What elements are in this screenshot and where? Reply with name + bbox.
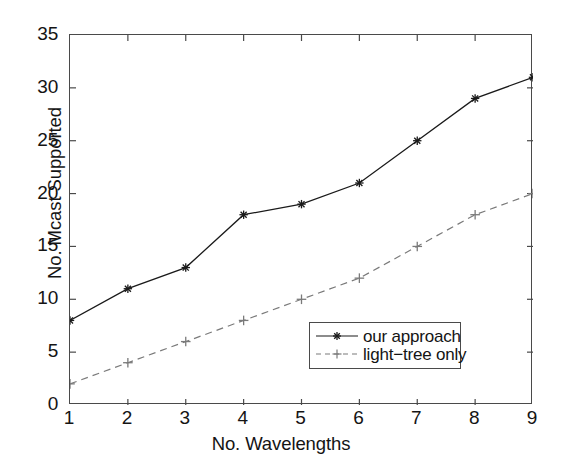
y-tick-label-1: 5 [0,341,58,360]
legend-item-series-1: our approach [315,327,455,345]
x-tick-label-6: 7 [396,408,436,427]
data-point-marker [239,316,249,326]
series-line-1 [70,77,533,320]
x-tick-label-7: 8 [454,408,494,427]
x-tick-label-1: 2 [107,408,147,427]
data-point-marker [471,94,479,102]
data-point-marker [413,137,421,145]
data-point-marker [297,200,305,208]
data-point-marker [355,179,363,187]
legend-item-series-2: light−tree only [315,345,455,363]
data-point-marker [124,285,132,293]
data-point-marker [529,73,533,81]
data-point-marker [412,242,422,252]
y-tick-label-6: 30 [0,77,58,96]
x-tick-label-8: 9 [512,408,552,427]
data-point-marker [182,263,190,271]
y-tick-label-3: 15 [0,235,58,254]
data-point-marker [123,358,133,368]
data-point-marker [297,294,307,304]
x-tick-label-4: 5 [281,408,321,427]
y-tick-label-2: 10 [0,288,58,307]
data-point-marker [181,337,191,347]
x-tick-label-5: 6 [338,408,378,427]
legend-label-series-2: light−tree only [363,346,466,363]
data-point-marker [239,211,247,219]
x-axis-title: No. Wavelengths [0,434,562,454]
data-point-marker [355,273,365,283]
data-point-marker [70,379,75,389]
data-point-marker [528,189,533,199]
data-point-marker [70,316,74,324]
y-tick-label-5: 25 [0,130,58,149]
y-tick-label-7: 35 [0,24,58,43]
legend-label-series-1: our approach [363,328,461,345]
legend-marker-plus-icon [315,346,359,362]
x-tick-label-3: 4 [223,408,263,427]
chart-figure: No. Mcast Supported 05101520253035 12345… [0,0,562,470]
x-tick-label-2: 3 [165,408,205,427]
data-point-marker [470,210,480,220]
chart-legend: our approach light−tree only [309,322,461,369]
x-tick-label-0: 1 [49,408,89,427]
legend-marker-star-icon [315,328,359,344]
y-tick-label-4: 20 [0,183,58,202]
